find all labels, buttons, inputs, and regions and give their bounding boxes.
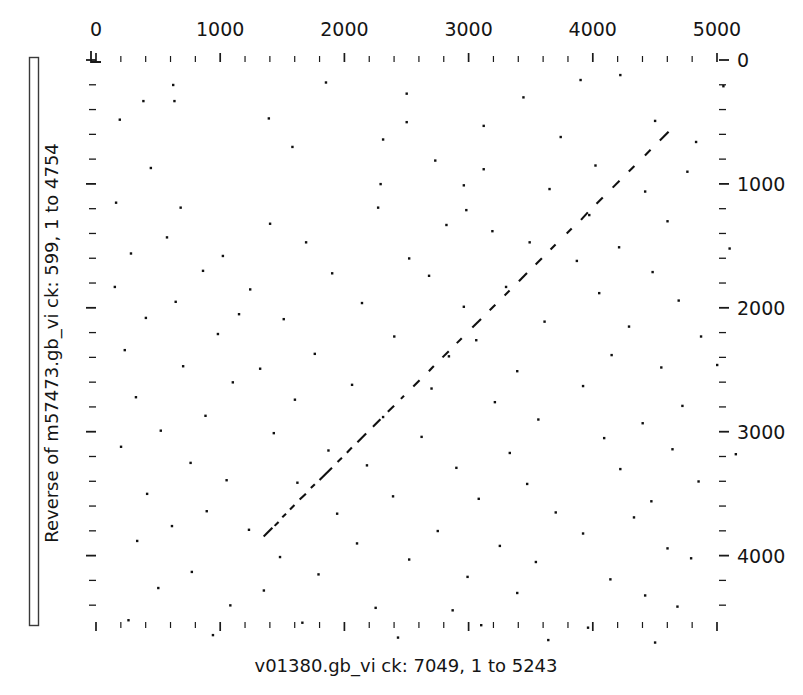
y-tick-label: 3000 <box>737 421 785 443</box>
noise-dot <box>619 74 621 76</box>
noise-dot <box>157 587 159 589</box>
noise-dot <box>212 634 214 636</box>
noise-dot <box>619 468 621 470</box>
noise-dot <box>301 622 303 624</box>
y-axis-tick-labels: 01000200030004000 <box>737 49 785 567</box>
noise-dot <box>145 317 147 319</box>
noise-dot <box>204 415 206 417</box>
noise-dot <box>191 571 193 573</box>
noise-dot <box>382 416 384 418</box>
noise-dot <box>483 125 485 127</box>
noise-dot <box>408 257 410 259</box>
match-segment <box>457 338 462 343</box>
noise-dot <box>189 462 191 464</box>
noise-dot <box>455 467 457 469</box>
noise-dot <box>618 246 620 248</box>
noise-dot <box>677 299 679 301</box>
noise-dot <box>182 365 184 367</box>
noise-dot <box>516 592 518 594</box>
dot-plot-figure: 010002000300040005000 01000200030004000 … <box>0 0 803 695</box>
noise-dot <box>526 483 528 485</box>
noise-dot <box>268 117 270 119</box>
noise-dot <box>644 190 646 192</box>
noise-dot <box>430 387 432 389</box>
noise-dot <box>382 138 384 140</box>
noise-dot <box>480 624 482 626</box>
match-segment <box>401 396 404 399</box>
match-segment <box>519 273 527 281</box>
noise-dot <box>331 272 333 274</box>
noise-dot <box>124 349 126 351</box>
noise-dot <box>576 260 578 262</box>
noise-dot <box>115 201 117 203</box>
y-axis-ticks-right <box>719 60 729 605</box>
noise-dot <box>406 121 408 123</box>
noise-dot <box>644 594 646 596</box>
y-tick-label: 2000 <box>737 297 785 319</box>
x-tick-label: 2000 <box>320 18 368 40</box>
noise-dot <box>543 320 545 322</box>
noise-dot <box>666 220 668 222</box>
noise-dot <box>582 385 584 387</box>
noise-dot <box>537 418 539 420</box>
noise-dot <box>222 255 224 257</box>
noise-dot <box>588 214 590 216</box>
noise-dot <box>499 545 501 547</box>
match-segment <box>347 448 352 453</box>
noise-dot <box>666 547 668 549</box>
noise-dot <box>238 313 240 315</box>
x-axis-ticks-bottom <box>96 622 717 631</box>
noise-dot <box>305 241 307 243</box>
noise-dot <box>483 168 485 170</box>
noise-dot <box>548 188 550 190</box>
noise-dot <box>393 335 395 337</box>
noise-dot <box>465 209 467 211</box>
noise-dot <box>314 353 316 355</box>
noise-dot <box>294 398 296 400</box>
match-segment <box>338 458 342 462</box>
noise-dot <box>356 542 358 544</box>
noise-dot <box>445 224 447 226</box>
noise-dot <box>516 370 518 372</box>
noise-dot <box>120 446 122 448</box>
noise-dot <box>392 495 394 497</box>
noise-dot <box>296 482 298 484</box>
noise-dot <box>628 325 630 327</box>
noise-dot <box>160 429 162 431</box>
noise-dot <box>535 561 537 563</box>
noise-dot <box>325 81 327 83</box>
noise-dot <box>690 557 692 559</box>
noise-dot <box>475 339 477 341</box>
noise-dot <box>351 384 353 386</box>
noise-dot <box>700 335 702 337</box>
noise-dot <box>522 96 524 98</box>
noise-dot <box>366 464 368 466</box>
noise-dot <box>660 366 662 368</box>
match-segment <box>645 150 651 156</box>
noise-dot <box>686 171 688 173</box>
noise-dot <box>279 556 281 558</box>
noise-dot <box>728 247 730 249</box>
noise-dot <box>582 532 584 534</box>
noise-dot <box>397 636 399 638</box>
noise-dot <box>610 354 612 356</box>
y-axis-ticks-left <box>86 60 96 605</box>
noise-dot <box>317 573 319 575</box>
noise-dot <box>174 301 176 303</box>
noise-dot <box>676 605 678 607</box>
noise-dot <box>598 292 600 294</box>
noise-dot <box>119 118 121 120</box>
noise-dot <box>650 500 652 502</box>
x-tick-label: 4000 <box>569 18 617 40</box>
match-segment <box>275 522 279 526</box>
noise-dot <box>229 604 231 606</box>
match-segment <box>581 212 588 219</box>
x-tick-label: 1000 <box>196 18 244 40</box>
match-segment <box>551 245 556 250</box>
match-segment <box>413 380 419 386</box>
noise-dot <box>225 479 227 481</box>
noise-dot <box>587 626 589 628</box>
noise-dot <box>142 100 144 102</box>
noise-dot <box>249 288 251 290</box>
match-segment <box>373 419 380 426</box>
